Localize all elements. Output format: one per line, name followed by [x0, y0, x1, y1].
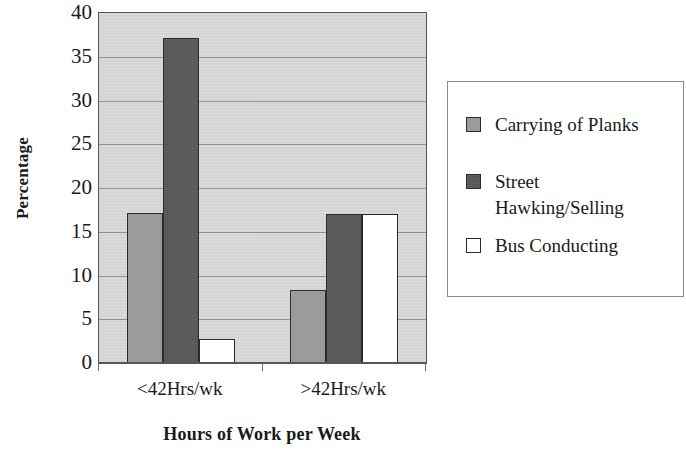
bar [290, 290, 326, 363]
y-axis-tick-label: 10 [44, 264, 92, 285]
bar-texture [128, 214, 162, 362]
bars-layer [99, 13, 426, 363]
bar-texture [291, 291, 325, 362]
legend-label: Bus Conducting [495, 233, 618, 259]
x-axis-tick-mark [98, 363, 99, 371]
bar [362, 214, 398, 363]
x-axis-title: Hours of Work per Week [98, 424, 426, 445]
chart-legend: Carrying of PlanksStreet Hawking/Selling… [447, 81, 684, 297]
bar [326, 214, 362, 363]
legend-item: Bus Conducting [466, 233, 618, 259]
x-axis-tick-label: <42Hrs/wk [137, 378, 223, 400]
y-axis-title: Percentage [13, 78, 33, 278]
x-axis-tick-mark [425, 363, 426, 371]
bar [199, 339, 235, 363]
bar [127, 213, 163, 363]
y-axis-tick-label: 25 [44, 133, 92, 154]
y-axis-tick-label: 15 [44, 220, 92, 241]
x-axis-tick-label: >42Hrs/wk [300, 378, 386, 400]
legend-swatch-texture [467, 118, 480, 131]
bar [163, 38, 199, 364]
legend-swatch-texture [467, 175, 480, 188]
legend-swatch [466, 238, 481, 253]
y-axis-tick-label: 5 [44, 308, 92, 329]
legend-item: Carrying of Planks [466, 112, 639, 138]
y-axis-tick-label: 35 [44, 45, 92, 66]
legend-label: Carrying of Planks [495, 112, 639, 138]
y-axis-tick-label: 0 [44, 352, 92, 373]
plot-area [98, 12, 427, 364]
legend-swatch [466, 117, 481, 132]
legend-label: Street Hawking/Selling [495, 169, 624, 221]
y-axis-tick-label: 30 [44, 89, 92, 110]
bar-texture [327, 215, 361, 362]
x-axis-tick-mark [262, 363, 263, 371]
y-axis-tick-label: 20 [44, 177, 92, 198]
y-axis-tick-labels: 0510152025303540 [44, 0, 92, 467]
bar-texture [164, 39, 198, 363]
legend-item: Street Hawking/Selling [466, 169, 624, 221]
legend-swatch [466, 174, 481, 189]
y-axis-tick-label: 40 [44, 2, 92, 23]
